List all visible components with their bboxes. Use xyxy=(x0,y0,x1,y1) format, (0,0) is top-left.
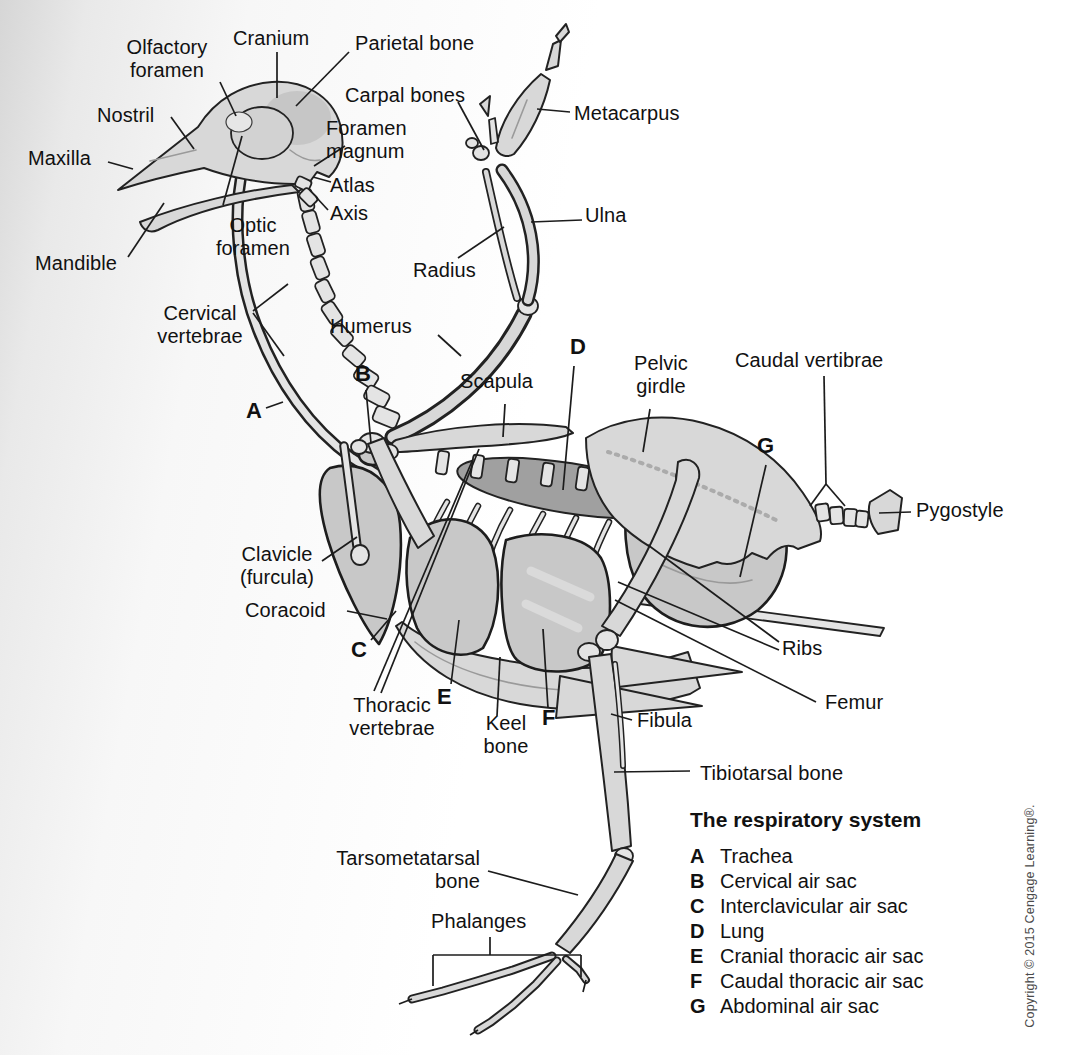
label-axis: Axis xyxy=(330,202,368,225)
label-scapula: Scapula xyxy=(460,370,533,393)
label-pygostyle: Pygostyle xyxy=(916,499,1004,522)
legend-row-G: GAbdominal air sac xyxy=(690,994,923,1019)
marker-D: D xyxy=(570,336,586,358)
label-cervical-vertebrae: Cervical vertebrae xyxy=(157,302,242,348)
legend-label: Cranial thoracic air sac xyxy=(720,944,923,969)
legend-row-F: FCaudal thoracic air sac xyxy=(690,969,923,994)
legend-label: Abdominal air sac xyxy=(720,994,879,1019)
metacarpus-bone xyxy=(496,74,550,156)
legend-row-B: BCervical air sac xyxy=(690,869,923,894)
legend-label: Interclavicular air sac xyxy=(720,894,908,919)
legend-key: A xyxy=(690,844,720,869)
legend-key: F xyxy=(690,969,720,994)
pelvic-girdle-shape xyxy=(586,418,821,568)
marker-B: B xyxy=(355,363,371,385)
caudal-vertebra-2 xyxy=(829,507,843,525)
caudal-vertebra-4 xyxy=(855,510,869,527)
label-femur: Femur xyxy=(825,691,883,714)
legend-key: G xyxy=(690,994,720,1019)
legend-row-A: ATrachea xyxy=(690,844,923,869)
label-caudal-vertibrae: Caudal vertibrae xyxy=(735,349,883,372)
legend-label: Cervical air sac xyxy=(720,869,857,894)
figure-page: Olfactory foramenCraniumParietal boneCar… xyxy=(0,0,1067,1055)
label-maxilla: Maxilla xyxy=(28,147,91,170)
legend-key: E xyxy=(690,944,720,969)
label-metacarpus: Metacarpus xyxy=(574,102,680,125)
label-tarsometatarsal-bone: Tarsometatarsal bone xyxy=(336,847,480,893)
tarsometatarsal-bone-shape xyxy=(556,854,633,953)
wing-digit-tip xyxy=(556,24,569,42)
label-parietal-bone: Parietal bone xyxy=(355,32,474,55)
carpal-bone-2 xyxy=(466,138,478,148)
label-keel-bone: Keel bone xyxy=(484,712,529,758)
label-humerus: Humerus xyxy=(330,315,412,338)
legend-label: Caudal thoracic air sac xyxy=(720,969,923,994)
label-foramen-magnum: Foramen magnum xyxy=(326,117,407,163)
label-pelvic-girdle: Pelvic girdle xyxy=(634,352,688,398)
marker-C: C xyxy=(351,639,367,661)
label-radius: Radius xyxy=(413,259,476,282)
copyright-notice: Copyright © 2015 Cengage Learning®. xyxy=(1023,804,1037,1027)
legend-row-C: CInterclavicular air sac xyxy=(690,894,923,919)
label-olfactory-foramen: Olfactory foramen xyxy=(127,36,208,82)
legend-row-E: ECranial thoracic air sac xyxy=(690,944,923,969)
label-fibula: Fibula xyxy=(637,709,692,732)
legend-key: D xyxy=(690,919,720,944)
label-optic-foramen: Optic foramen xyxy=(216,214,290,260)
caudal-vertebra-1 xyxy=(815,503,830,522)
olfactory-foramen-shape xyxy=(226,112,252,132)
label-phalanges: Phalanges xyxy=(431,910,526,933)
marker-E: E xyxy=(437,686,452,708)
legend-label: Trachea xyxy=(720,844,793,869)
label-tibiotarsal-bone: Tibiotarsal bone xyxy=(700,762,843,785)
marker-F: F xyxy=(542,707,555,729)
legend-label: Lung xyxy=(720,919,765,944)
legend-key: B xyxy=(690,869,720,894)
label-cranium: Cranium xyxy=(233,27,309,50)
label-clavicle-furcula: Clavicle (furcula) xyxy=(240,543,314,589)
label-ribs: Ribs xyxy=(782,637,822,660)
splint-bone xyxy=(489,118,498,144)
label-carpal-bones: Carpal bones xyxy=(345,84,465,107)
legend-key: C xyxy=(690,894,720,919)
label-ulna: Ulna xyxy=(585,204,627,227)
respiratory-legend: The respiratory system ATracheaBCervical… xyxy=(690,808,923,1019)
legend-title: The respiratory system xyxy=(690,808,923,832)
alular-digit xyxy=(480,96,490,116)
wing-digit-1 xyxy=(546,40,561,70)
label-thoracic-vertebrae: Thoracic vertebrae xyxy=(349,694,434,740)
label-coracoid: Coracoid xyxy=(245,599,326,622)
phalanges-bones xyxy=(399,956,586,1035)
legend-items: ATracheaBCervical air sacCInterclavicula… xyxy=(690,844,923,1019)
label-nostril: Nostril xyxy=(97,104,154,127)
marker-G: G xyxy=(757,435,774,457)
label-mandible: Mandible xyxy=(35,252,117,275)
legend-row-D: DLung xyxy=(690,919,923,944)
label-atlas: Atlas xyxy=(330,174,375,197)
marker-A: A xyxy=(246,400,262,422)
